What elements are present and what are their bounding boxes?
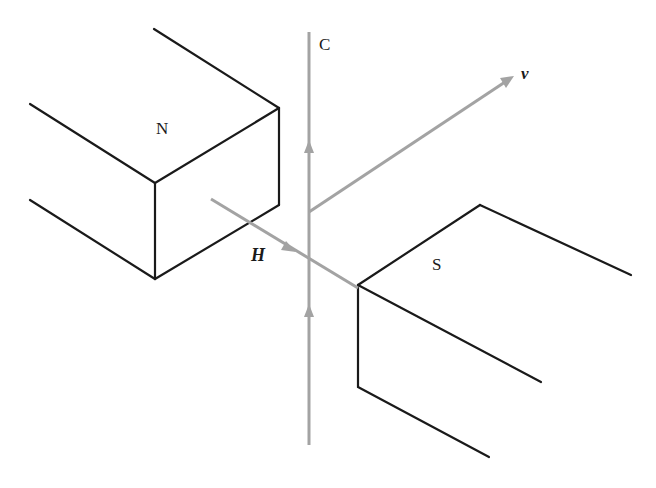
north-pole-label: N [156, 119, 168, 138]
north-magnet-top-front-edge [155, 108, 279, 183]
velocity-arrowhead-icon [500, 76, 514, 88]
south-pole-label: S [432, 255, 441, 274]
field-vector-h: H [211, 199, 358, 288]
field-label: H [250, 245, 266, 265]
south-magnet-top-back-edge [480, 205, 631, 275]
velocity-line [309, 82, 505, 212]
south-magnet-top-right-edge [358, 285, 541, 382]
south-magnet-bottom-right-edge [358, 387, 489, 457]
north-magnet-bottom-front-edge [155, 205, 279, 279]
magnetic-field-diagram: N S H C v [0, 0, 656, 488]
velocity-vector-v: v [309, 64, 529, 212]
conductor-label: C [319, 35, 330, 54]
conductor-wire: C [304, 32, 330, 445]
velocity-label: v [521, 64, 529, 83]
south-magnet-top-front-edge [358, 205, 480, 285]
current-arrowhead-lower-icon [304, 304, 314, 317]
south-magnet: S [358, 205, 631, 457]
current-arrowhead-upper-icon [304, 140, 314, 153]
north-magnet-top-back-edge [154, 29, 279, 108]
north-magnet-bottom-left-edge [30, 200, 155, 279]
north-magnet: N [30, 29, 279, 279]
north-magnet-top-left-edge [30, 104, 155, 183]
field-line [211, 199, 358, 288]
